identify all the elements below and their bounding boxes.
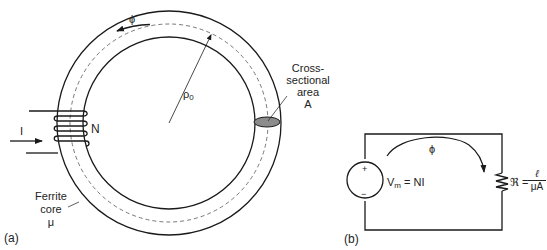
core-label: Ferrite core μ [33, 190, 69, 228]
panel-label-a: (a) [4, 232, 19, 244]
radius-arrow-icon [169, 35, 211, 123]
flux-label-b: ϕ [429, 143, 435, 155]
radius-label: ρ0 [183, 88, 194, 104]
core-label-line3: μ [33, 216, 69, 228]
reluctance-fraction: ℓ μA [528, 168, 546, 193]
circuit-flux-arrow-icon [387, 137, 484, 172]
flux-arrow-icon [117, 25, 150, 32]
diagram-canvas [0, 0, 547, 250]
reluctance-label: ℜ = [510, 176, 528, 188]
radius-subscript: 0 [189, 93, 193, 102]
source-label-rest: = NI [401, 176, 425, 188]
area-label-line1: Cross- [282, 62, 334, 74]
source-minus: − [361, 188, 366, 200]
source-label: Vm = NI [387, 176, 425, 192]
area-label-line3: area [282, 86, 334, 98]
ferrite-leader-line [68, 202, 79, 207]
source-plus: + [362, 163, 367, 175]
flux-label-a: ϕ [129, 13, 135, 25]
source-label-sub: m [394, 181, 401, 190]
reluctance-denominator: μA [528, 181, 546, 193]
area-label: Cross- sectional area A [282, 62, 334, 110]
core-label-line1: Ferrite [33, 190, 69, 202]
area-label-line2: sectional [282, 74, 334, 86]
reluctance-resistor-icon [496, 173, 508, 191]
core-label-line2: core [33, 203, 69, 215]
turns-label: N [91, 123, 100, 135]
panel-label-b: (b) [344, 233, 359, 245]
current-label: I [20, 125, 23, 137]
area-label-line4: A [282, 98, 334, 110]
reluctance-numerator: ℓ [528, 168, 546, 181]
